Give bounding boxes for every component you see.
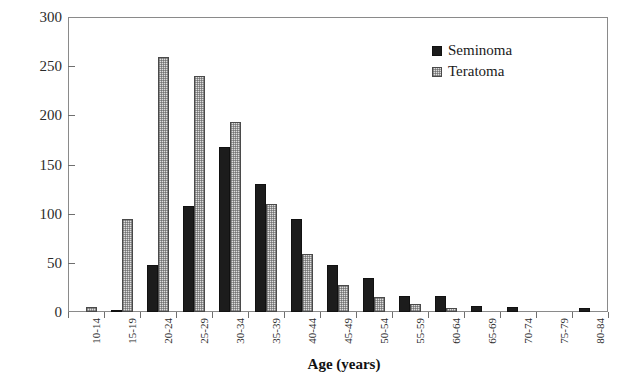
bar-seminoma-60-64	[435, 296, 446, 312]
x-tick-label: 15-19	[127, 318, 138, 388]
bar-seminoma-15-19	[111, 310, 122, 312]
x-tick-mark	[464, 312, 465, 318]
bar-teratoma-10-14	[86, 307, 97, 312]
x-tick-mark	[536, 312, 537, 318]
bar-seminoma-20-24	[147, 265, 158, 312]
x-tick-label: 25-29	[199, 318, 210, 388]
legend-item-seminoma: Seminoma	[432, 40, 512, 61]
bar-teratoma-45-49	[338, 285, 349, 312]
bar-teratoma-50-54	[374, 297, 385, 312]
x-tick-label: 40-44	[307, 318, 318, 388]
x-tick-mark	[320, 312, 321, 318]
bar-teratoma-60-64	[446, 308, 457, 312]
bar-teratoma-20-24	[158, 57, 169, 312]
x-tick-label: 70-74	[523, 318, 534, 388]
bar-seminoma-25-29	[183, 206, 194, 312]
x-tick-label: 80-84	[595, 318, 606, 388]
legend-item-teratoma: Teratoma	[432, 61, 512, 82]
x-tick-mark	[104, 312, 105, 318]
bar-teratoma-35-39	[266, 204, 277, 312]
x-tick-mark	[284, 312, 285, 318]
x-tick-mark	[572, 312, 573, 318]
bar-seminoma-65-69	[471, 306, 482, 312]
bar-seminoma-80-84	[579, 308, 590, 312]
x-tick-mark	[68, 312, 69, 318]
legend-swatch-teratoma-icon	[432, 67, 442, 77]
bar-seminoma-30-34	[219, 147, 230, 312]
x-tick-mark	[500, 312, 501, 318]
bar-teratoma-25-29	[194, 76, 205, 312]
bar-seminoma-40-44	[291, 219, 302, 312]
bar-teratoma-15-19	[122, 219, 133, 312]
bar-seminoma-50-54	[363, 278, 374, 312]
bar-seminoma-55-59	[399, 296, 410, 312]
x-tick-mark	[608, 312, 609, 318]
legend-swatch-seminoma-icon	[432, 46, 442, 56]
x-tick-mark	[356, 312, 357, 318]
bars-layer	[0, 0, 626, 312]
x-tick-label: 20-24	[163, 318, 174, 388]
bar-teratoma-30-34	[230, 122, 241, 312]
x-tick-mark	[212, 312, 213, 318]
legend: Seminoma Teratoma	[432, 40, 512, 82]
x-tick-mark	[428, 312, 429, 318]
x-tick-mark	[140, 312, 141, 318]
x-tick-label: 45-49	[343, 318, 354, 388]
bar-teratoma-55-59	[410, 304, 421, 312]
bar-seminoma-70-74	[507, 307, 518, 312]
x-tick-label: 65-69	[487, 318, 498, 388]
x-tick-label: 75-79	[559, 318, 570, 388]
x-tick-label: 10-14	[91, 318, 102, 388]
bar-seminoma-35-39	[255, 184, 266, 312]
x-axis-title: Age (years)	[0, 356, 626, 373]
legend-label-seminoma: Seminoma	[448, 43, 512, 58]
bar-seminoma-45-49	[327, 265, 338, 312]
x-tick-label: 35-39	[271, 318, 282, 388]
x-tick-label: 60-64	[451, 318, 462, 388]
x-tick-mark	[176, 312, 177, 318]
x-tick-mark	[248, 312, 249, 318]
x-tick-label: 50-54	[379, 318, 390, 388]
bar-chart: Number of patients 050100150200250300 10…	[0, 0, 626, 388]
legend-label-teratoma: Teratoma	[448, 64, 504, 79]
x-tick-mark	[392, 312, 393, 318]
x-tick-label: 30-34	[235, 318, 246, 388]
x-tick-label: 55-59	[415, 318, 426, 388]
bar-teratoma-40-44	[302, 254, 313, 312]
